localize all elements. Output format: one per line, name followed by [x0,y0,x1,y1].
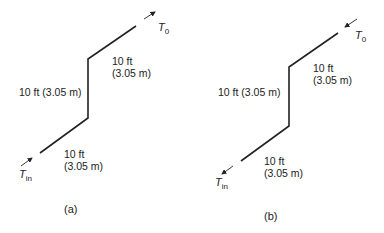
outlet-temp-label-a: T0 [158,21,169,36]
outlet-arrow-b [345,19,357,27]
lower-segment-label-a: 10 ft(3.05 m) [64,148,103,172]
caption-a: (a) [64,203,77,215]
vertical-segment-label-a: 10 ft (3.05 m) [19,86,81,98]
outlet-temp-label-b: T0 [355,29,366,44]
pipe-diagram-figure: T0 10 ft(3.05 m) 10 ft (3.05 m) 10 ft(3.… [0,0,384,233]
pipe-lines [0,0,384,233]
inlet-temp-label-a: Tin [19,168,32,183]
inlet-temp-label-b: Tin [215,176,228,191]
inlet-arrow-a [21,158,32,166]
caption-b: (b) [264,210,277,222]
lower-segment-label-b: 10 ft(3.05 m) [264,155,303,179]
outlet-arrow-a [144,12,155,19]
upper-segment-label-a: 10 ft(3.05 m) [112,55,151,79]
vertical-segment-label-b: 10 ft (3.05 m) [218,86,280,98]
inlet-arrow-b [222,166,233,174]
upper-segment-label-b: 10 ft(3.05 m) [313,62,352,86]
